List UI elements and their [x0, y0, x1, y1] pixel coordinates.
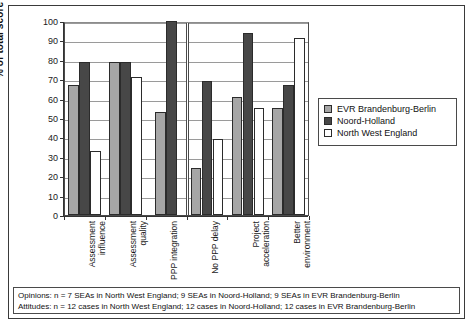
- plot-area: [64, 22, 309, 216]
- x-tick-end: [309, 216, 310, 220]
- bar-evr-3: [191, 168, 202, 215]
- x-tick-0: [64, 216, 65, 220]
- y-axis-title: % of total score: [0, 2, 5, 78]
- bar-nwe-5: [294, 38, 305, 215]
- bar-noord-5: [283, 85, 294, 215]
- y-tick-label-90: 90: [48, 37, 58, 46]
- bar-evr-5: [272, 108, 283, 215]
- y-tick-label-80: 80: [48, 56, 58, 65]
- bar-evr-1: [109, 62, 120, 215]
- legend-label-evr: EVR Brandenburg-Berlin: [337, 104, 436, 114]
- bar-noord-1: [120, 62, 131, 215]
- x-tick-1: [105, 216, 106, 220]
- y-tick-label-20: 20: [48, 173, 58, 182]
- footnote-line-opinions: Opinions: n = 7 SEAs in North West Engla…: [18, 290, 455, 301]
- bar-nwe-0: [90, 151, 101, 215]
- footnote-box: Opinions: n = 7 SEAs in North West Engla…: [13, 287, 460, 314]
- x-tick-4: [227, 216, 228, 220]
- footnote-line-attitudes: Attitudes: n = 12 cases in North West En…: [18, 301, 455, 312]
- x-axis-label-5: Better environment: [293, 221, 312, 287]
- y-tick-label-10: 10: [48, 192, 58, 201]
- bar-noord-0: [79, 62, 90, 215]
- y-tick-label-30: 30: [48, 153, 58, 162]
- bar-evr-4: [232, 97, 243, 215]
- y-tick-label-100: 100: [43, 18, 58, 27]
- bar-noord-2: [166, 21, 177, 215]
- legend-item-evr: EVR Brandenburg-Berlin: [324, 104, 451, 114]
- bar-noord-4: [243, 33, 254, 215]
- legend-swatch-icon-nwe: [324, 129, 332, 137]
- x-tick-3: [187, 216, 188, 220]
- y-tick-label-70: 70: [48, 76, 58, 85]
- chart-figure: % of total score 0102030405060708090100 …: [0, 0, 473, 325]
- legend: EVR Brandenburg-Berlin Noord-Holland Nor…: [318, 98, 457, 146]
- x-axis-label-0: Assessment influence: [88, 221, 107, 287]
- block-divider: [186, 23, 189, 215]
- y-tick-label-50: 50: [48, 115, 58, 124]
- bar-evr-2: [155, 112, 166, 215]
- bar-nwe-3: [213, 139, 224, 215]
- y-tick-label-60: 60: [48, 95, 58, 104]
- y-tick-label-0: 0: [53, 212, 58, 221]
- y-tick-label-40: 40: [48, 134, 58, 143]
- legend-label-noord: Noord-Holland: [337, 116, 395, 126]
- x-axis-label-2: PPP integration: [170, 221, 180, 287]
- bar-nwe-1: [131, 77, 142, 215]
- x-axis-label-3: No PPP delay: [211, 221, 221, 287]
- legend-item-noord: Noord-Holland: [324, 116, 451, 126]
- x-axis-label-1: Assessment quality: [129, 221, 148, 287]
- legend-swatch-icon-noord: [324, 117, 332, 125]
- bar-nwe-4: [254, 108, 265, 215]
- legend-item-nwe: North West England: [324, 128, 451, 138]
- legend-swatch-icon-evr: [324, 105, 332, 113]
- bar-evr-0: [68, 85, 79, 215]
- x-tick-2: [146, 216, 147, 220]
- x-axis-labels: Assessment influenceAssessment qualityPP…: [64, 221, 309, 287]
- x-tick-5: [268, 216, 269, 220]
- x-axis-label-4: Project acceleration: [252, 221, 271, 287]
- bar-noord-3: [202, 81, 213, 215]
- legend-label-nwe: North West England: [337, 128, 417, 138]
